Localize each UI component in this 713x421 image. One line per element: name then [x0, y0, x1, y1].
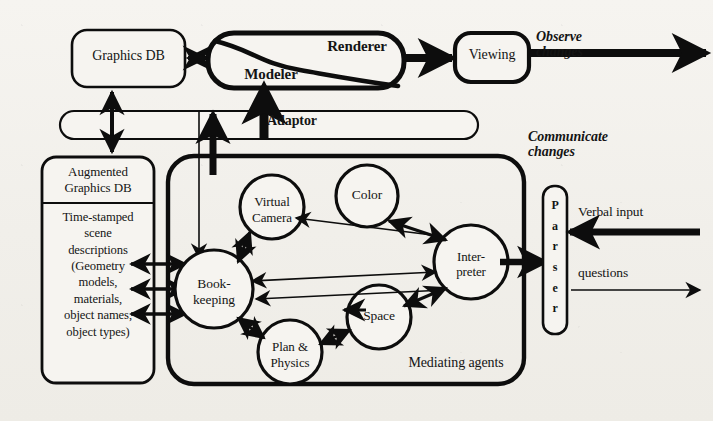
label-observe-changes: Observe changes: [536, 30, 656, 60]
label-bookkeeping: Book- keeping: [182, 276, 246, 308]
label-adaptor: Adaptor: [232, 114, 352, 129]
label-modeler: Modeler: [228, 67, 314, 83]
diagram-canvas: Graphics DB Renderer Modeler Viewing Obs…: [0, 0, 713, 421]
label-renderer: Renderer: [310, 39, 404, 55]
label-mediating-agents: Mediating agents: [386, 356, 526, 371]
label-questions: questions: [578, 266, 688, 280]
label-viewing: Viewing: [455, 48, 529, 63]
label-color: Color: [337, 188, 397, 202]
label-communicate-changes: Communicate changes: [528, 130, 658, 160]
label-verbal-input: Verbal input: [578, 205, 688, 219]
label-space: Space: [349, 309, 409, 323]
label-augmented-db-body: Time-stamped scene descriptions (Geometr…: [42, 209, 154, 340]
label-plan-physics: Plan & Physics: [258, 339, 322, 370]
label-interpreter: Inter- preter: [440, 249, 502, 280]
label-parser: P a r s e r: [543, 195, 567, 319]
label-graphics-db: Graphics DB: [72, 49, 185, 64]
label-virtual-camera: Virtual Camera: [238, 194, 306, 225]
label-augmented-db-header: Augmented Graphics DB: [44, 164, 152, 197]
